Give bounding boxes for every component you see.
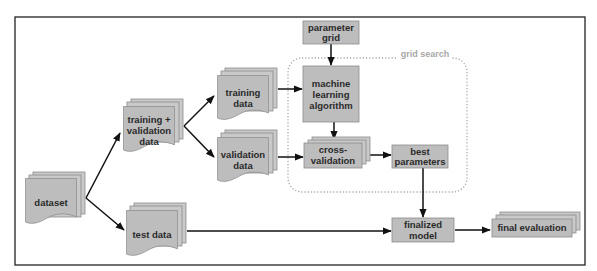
node-label: training [226,87,261,98]
node-label: machine [312,78,351,89]
node-cross-validation: cross- validation [304,137,370,168]
node-label: cross- [319,144,348,155]
node-label: validation [221,149,266,160]
node-training-validation-data: training + validation data [123,99,183,151]
node-label: final evaluation [497,222,566,233]
node-finalized-model: finalized model [392,218,454,242]
node-parameter-grid: parameter grid [303,21,359,44]
node-final-evaluation: final evaluation [492,212,580,237]
node-label: data [139,136,159,147]
node-label: algorithm [309,100,352,111]
node-label: validation [311,155,356,166]
node-label: grid [322,32,340,43]
grid-search-label: grid search [401,49,450,59]
node-label: test data [132,229,172,240]
node-dataset: dataset [25,172,85,223]
node-label: data [233,160,253,171]
node-label: data [233,98,253,109]
node-label: training + [127,114,170,125]
node-label: finalized [404,219,442,230]
node-machine-learning-algorithm: machine learning algorithm [303,66,359,122]
node-label: learning [313,89,350,100]
node-label: validation [127,125,172,136]
node-label: parameters [394,156,445,167]
ml-workflow-diagram: grid search dataset [0,0,597,271]
node-best-parameters: best parameters [392,145,448,168]
node-label: dataset [34,197,68,208]
node-label: model [409,230,437,241]
